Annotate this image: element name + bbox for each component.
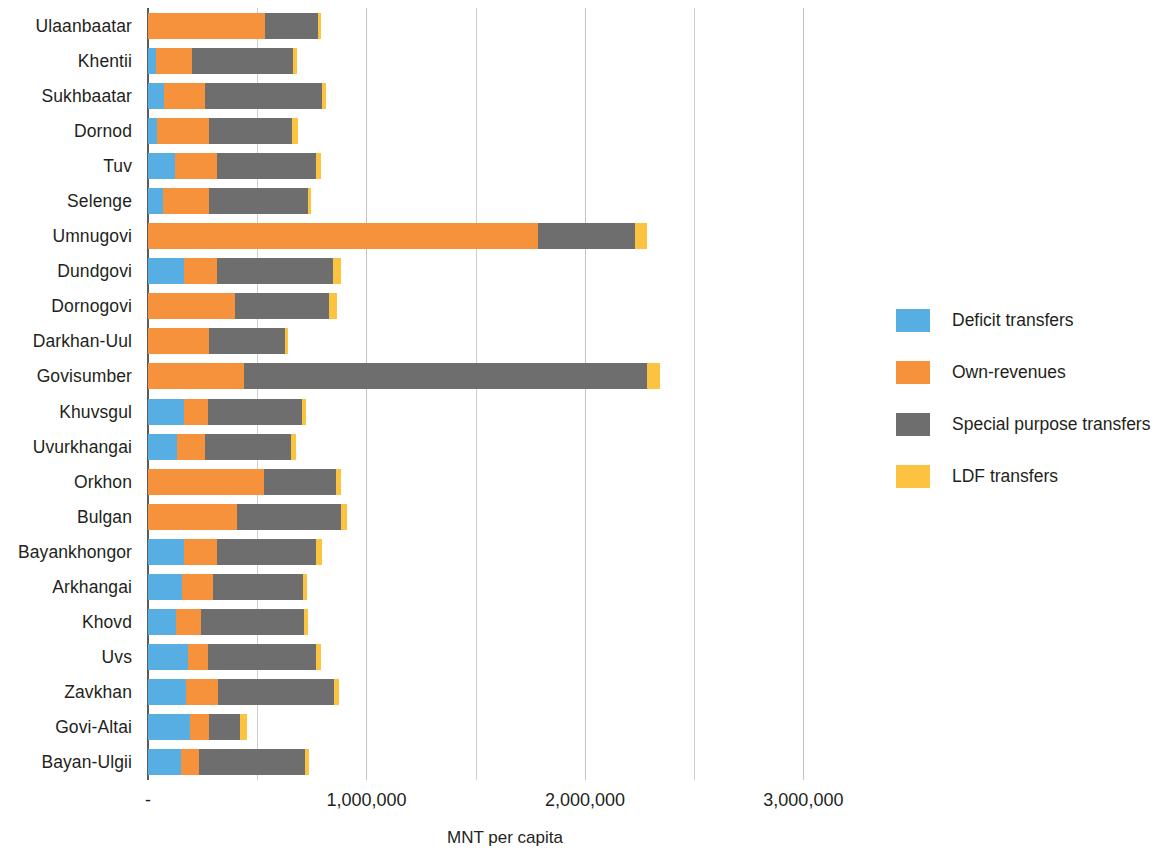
bar-segment bbox=[148, 609, 176, 635]
bar-segment bbox=[148, 13, 265, 39]
legend-item[interactable]: Deficit transfers bbox=[896, 305, 1161, 357]
y-axis-label: Uvurkhangai bbox=[33, 437, 132, 457]
bar-segment bbox=[148, 679, 186, 705]
legend-label: Deficit transfers bbox=[952, 305, 1074, 336]
bar-segment bbox=[316, 153, 320, 179]
y-axis-label: Govisumber bbox=[37, 366, 132, 386]
bar-segment bbox=[303, 574, 307, 600]
bar-segment bbox=[209, 328, 285, 354]
bar-segment bbox=[244, 363, 647, 389]
bar-segment bbox=[333, 258, 341, 284]
bar-segment bbox=[148, 714, 190, 740]
bar-segment bbox=[291, 434, 296, 460]
bar-segment bbox=[148, 574, 182, 600]
bar-segment bbox=[148, 83, 164, 109]
y-axis-label: Tuv bbox=[103, 156, 132, 176]
bar-segment bbox=[199, 749, 305, 775]
y-axis-label: Bayan-Ulgii bbox=[41, 752, 132, 772]
y-axis-category-labels: UlaanbaatarKhentiiSukhbaatarDornodTuvSel… bbox=[0, 8, 140, 780]
bar-segment bbox=[148, 153, 175, 179]
gridline bbox=[366, 8, 367, 780]
bar-segment bbox=[237, 504, 341, 530]
x-tick-label: 2,000,000 bbox=[545, 788, 625, 812]
bar-segment bbox=[148, 223, 538, 249]
bar-segment bbox=[316, 644, 321, 670]
bar-segment bbox=[305, 749, 309, 775]
bar-segment bbox=[148, 328, 209, 354]
legend-label: Own-revenues bbox=[952, 357, 1066, 388]
bar-segment bbox=[217, 539, 316, 565]
bar-segment bbox=[217, 258, 332, 284]
bar-segment bbox=[182, 574, 214, 600]
y-axis-label: Arkhangai bbox=[52, 577, 132, 597]
bar-segment bbox=[148, 48, 156, 74]
bar-segment bbox=[201, 609, 304, 635]
gridline bbox=[476, 8, 477, 780]
x-tick-label: 3,000,000 bbox=[763, 788, 843, 812]
bar-segment bbox=[302, 399, 306, 425]
bar-segment bbox=[240, 714, 247, 740]
bar-segment bbox=[188, 644, 208, 670]
bar-segment bbox=[148, 399, 184, 425]
legend-item[interactable]: Own-revenues bbox=[896, 357, 1161, 409]
bar-segment bbox=[334, 679, 339, 705]
bar-segment bbox=[336, 469, 341, 495]
y-axis-label: Selenge bbox=[67, 191, 132, 211]
legend-swatch-orange bbox=[896, 361, 930, 384]
y-axis-label: Orkhon bbox=[74, 472, 132, 492]
bar-segment bbox=[304, 609, 308, 635]
stacked-bar-chart: UlaanbaatarKhentiiSukhbaatarDornodTuvSel… bbox=[0, 0, 1167, 866]
bar-segment bbox=[217, 153, 316, 179]
y-axis-label: Bayankhongor bbox=[18, 542, 132, 562]
bar-segment bbox=[148, 644, 188, 670]
legend-label: Special purpose transfers bbox=[952, 409, 1150, 440]
bar-segment bbox=[292, 118, 298, 144]
bar-segment bbox=[184, 258, 218, 284]
bar-segment bbox=[264, 469, 335, 495]
bar-segment bbox=[208, 644, 316, 670]
x-axis-tick-labels: -1,000,0002,000,0003,000,000 bbox=[0, 788, 1167, 818]
bar-segment bbox=[181, 749, 199, 775]
bar-segment bbox=[235, 293, 329, 319]
bar-segment bbox=[209, 714, 240, 740]
bar-segment bbox=[163, 188, 209, 214]
bar-segment bbox=[293, 48, 297, 74]
bar-segment bbox=[176, 609, 202, 635]
bar-segment bbox=[148, 293, 235, 319]
bar-segment bbox=[192, 48, 293, 74]
y-axis-label: Umnugovi bbox=[52, 226, 132, 246]
bar-segment bbox=[164, 83, 205, 109]
y-axis-label: Darkhan-Uul bbox=[33, 331, 132, 351]
x-tick-label: 1,000,000 bbox=[326, 788, 406, 812]
bar-segment bbox=[341, 504, 347, 530]
bar-segment bbox=[175, 153, 218, 179]
bar-segment bbox=[316, 539, 322, 565]
bar-segment bbox=[285, 328, 288, 354]
y-axis-label: Dornogovi bbox=[51, 296, 132, 316]
bar-segment bbox=[148, 188, 163, 214]
bar-segment bbox=[322, 83, 326, 109]
legend-swatch-blue bbox=[896, 309, 930, 332]
legend-item[interactable]: LDF transfers bbox=[896, 461, 1161, 513]
chart-legend: Deficit transfersOwn-revenuesSpecial pur… bbox=[896, 305, 1161, 513]
bar-segment bbox=[148, 118, 157, 144]
y-axis-label: Khovd bbox=[82, 612, 132, 632]
legend-swatch-yellow bbox=[896, 465, 930, 488]
bar-segment bbox=[148, 363, 244, 389]
y-axis-label: Khuvsgul bbox=[59, 402, 132, 422]
bar-segment bbox=[209, 188, 308, 214]
gridline bbox=[803, 8, 804, 780]
bar-segment bbox=[148, 434, 177, 460]
bar-segment bbox=[213, 574, 303, 600]
y-axis-label: Ulaanbaatar bbox=[36, 16, 132, 36]
legend-item[interactable]: Special purpose transfers bbox=[896, 409, 1161, 461]
bar-segment bbox=[190, 714, 209, 740]
bar-segment bbox=[148, 749, 181, 775]
legend-label: LDF transfers bbox=[952, 461, 1058, 492]
bar-segment bbox=[157, 118, 209, 144]
x-tick-label: - bbox=[145, 788, 151, 812]
bar-segment bbox=[148, 258, 184, 284]
plot-area bbox=[148, 8, 858, 780]
bar-segment bbox=[205, 83, 321, 109]
bar-segment bbox=[218, 679, 333, 705]
